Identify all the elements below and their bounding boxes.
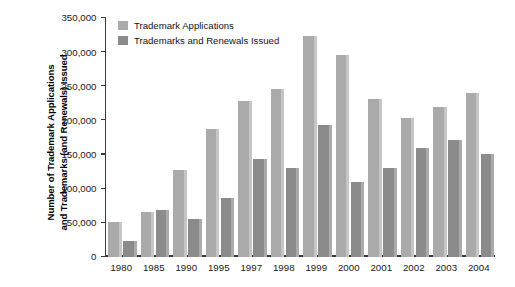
x-axis-tick-label: 2000 bbox=[333, 262, 366, 273]
bar-face bbox=[416, 148, 427, 257]
bar-face bbox=[108, 222, 119, 258]
bar-side-face bbox=[119, 222, 122, 258]
x-axis-tick-label: 2003 bbox=[430, 262, 463, 273]
y-axis-tick-label: 350,000 bbox=[61, 12, 96, 23]
y-axis-tick-label: 50,000 bbox=[67, 217, 97, 228]
bar-side-face bbox=[281, 89, 284, 257]
bar-face bbox=[173, 170, 184, 257]
chart-legend: Trademark Applications Trademarks and Re… bbox=[118, 19, 279, 49]
x-axis-tick-label: 1995 bbox=[203, 262, 236, 273]
bar-side-face bbox=[361, 182, 364, 257]
bars-layer bbox=[105, 18, 495, 257]
x-axis-tick-label: 2002 bbox=[398, 262, 431, 273]
bar-face bbox=[123, 241, 134, 257]
bar-issued bbox=[156, 210, 167, 257]
x-axis-tick-label: 2004 bbox=[463, 262, 496, 273]
bar-side-face bbox=[134, 241, 137, 257]
bar-face bbox=[433, 107, 444, 257]
bar-group bbox=[271, 18, 300, 257]
bar-face bbox=[156, 210, 167, 257]
bar-side-face bbox=[444, 107, 447, 257]
bar-group bbox=[368, 18, 397, 257]
bar-applications bbox=[433, 107, 444, 257]
y-axis-title: Number of Trademark Applications and Tra… bbox=[45, 23, 70, 263]
bar-side-face bbox=[166, 210, 169, 257]
bar-issued bbox=[123, 241, 134, 257]
bar-face bbox=[318, 125, 329, 257]
x-axis-tick-label: 2001 bbox=[365, 262, 398, 273]
bar-face bbox=[351, 182, 362, 257]
bar-issued bbox=[351, 182, 362, 257]
bar-applications bbox=[303, 36, 314, 257]
bar-face bbox=[271, 89, 282, 257]
bar-side-face bbox=[199, 219, 202, 257]
legend-swatch-applications-icon bbox=[118, 21, 128, 30]
bar-face bbox=[286, 168, 297, 257]
bar-applications bbox=[368, 99, 379, 257]
bar-issued bbox=[481, 154, 492, 257]
bar-side-face bbox=[264, 159, 267, 257]
bar-side-face bbox=[314, 36, 317, 257]
legend-label-issued: Trademarks and Renewals Issued bbox=[134, 35, 279, 46]
bar-side-face bbox=[459, 140, 462, 257]
bar-issued bbox=[383, 168, 394, 257]
bar-applications bbox=[206, 129, 217, 257]
bar-group bbox=[238, 18, 267, 257]
bar-applications bbox=[173, 170, 184, 257]
bar-face bbox=[188, 219, 199, 257]
bar-issued bbox=[253, 159, 264, 257]
bar-group bbox=[173, 18, 202, 257]
bar-side-face bbox=[379, 99, 382, 257]
bar-side-face bbox=[329, 125, 332, 257]
trademark-bar-chart: Number of Trademark Applications and Tra… bbox=[0, 0, 515, 287]
bar-group bbox=[303, 18, 332, 257]
x-axis-tick-label: 1997 bbox=[235, 262, 268, 273]
y-axis-tick-label: 0 bbox=[91, 251, 96, 262]
bar-issued bbox=[221, 198, 232, 257]
bar-face bbox=[466, 93, 477, 257]
bar-issued bbox=[448, 140, 459, 257]
bar-side-face bbox=[491, 154, 494, 257]
legend-swatch-issued-icon bbox=[118, 36, 128, 45]
bar-applications bbox=[336, 55, 347, 257]
y-axis-tick-label: 250,000 bbox=[61, 80, 96, 91]
y-axis-tick-label: 200,000 bbox=[61, 114, 96, 125]
bar-applications bbox=[108, 222, 119, 258]
bar-side-face bbox=[216, 129, 219, 257]
bar-face bbox=[336, 55, 347, 257]
legend-label-applications: Trademark Applications bbox=[134, 20, 234, 31]
bar-side-face bbox=[184, 170, 187, 257]
bar-face bbox=[238, 101, 249, 257]
bar-face bbox=[481, 154, 492, 257]
bar-face bbox=[141, 212, 152, 257]
bar-applications bbox=[466, 93, 477, 257]
y-axis-title-line-1: Number of Trademark Applications bbox=[45, 23, 58, 263]
bar-applications bbox=[401, 118, 412, 257]
bar-group bbox=[206, 18, 235, 257]
x-axis-tick-label: 1990 bbox=[170, 262, 203, 273]
bar-face bbox=[448, 140, 459, 257]
bar-side-face bbox=[394, 168, 397, 257]
bar-group bbox=[466, 18, 495, 257]
bar-side-face bbox=[426, 148, 429, 257]
bar-group bbox=[108, 18, 137, 257]
bar-side-face bbox=[249, 101, 252, 257]
bar-side-face bbox=[346, 55, 349, 257]
y-axis-tick-label: 150,000 bbox=[61, 148, 96, 159]
bar-face bbox=[368, 99, 379, 257]
bar-side-face bbox=[296, 168, 299, 257]
bar-group bbox=[336, 18, 365, 257]
bar-applications bbox=[271, 89, 282, 257]
bar-group bbox=[401, 18, 430, 257]
bar-face bbox=[221, 198, 232, 257]
bar-side-face bbox=[231, 198, 234, 257]
x-axis-tick-label: 1998 bbox=[268, 262, 301, 273]
bar-side-face bbox=[411, 118, 414, 257]
bar-face bbox=[303, 36, 314, 257]
bar-group bbox=[433, 18, 462, 257]
bar-applications bbox=[141, 212, 152, 257]
bar-face bbox=[383, 168, 394, 257]
plot-area: 050,000100,000150,000200,000250,000300,0… bbox=[105, 18, 495, 257]
bar-face bbox=[253, 159, 264, 257]
bar-issued bbox=[318, 125, 329, 257]
